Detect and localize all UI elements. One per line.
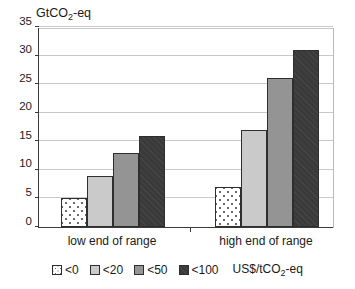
bar [139, 136, 165, 227]
legend-swatch-icon [179, 265, 189, 275]
legend-item[interactable]: <50 [134, 263, 167, 277]
y-axis-tick-label: 15 [19, 130, 32, 142]
chart-legend: <0<20<50<100US$/tCO2-eq [0, 262, 355, 277]
y-axis-title-prefix: GtCO [36, 6, 68, 20]
y-axis-tick [35, 169, 39, 170]
bar [87, 176, 113, 227]
y-axis-tick-label: 30 [19, 44, 32, 56]
y-axis-tick-label: 10 [19, 159, 32, 171]
legend-item-label: <20 [103, 263, 123, 277]
y-axis-tick-label: 20 [19, 101, 32, 113]
legend-item[interactable]: <0 [52, 263, 79, 277]
bar-chart: GtCO2-eq 05101520253035 low end of range… [0, 0, 355, 289]
y-axis-title-suffix: -eq [73, 6, 91, 20]
legend-swatch-icon [134, 265, 144, 275]
gridline [39, 26, 333, 27]
y-axis-tick [35, 83, 39, 84]
legend-unit-prefix: US$/tCO [233, 262, 281, 276]
legend-item[interactable]: <100 [179, 263, 219, 277]
bar [61, 198, 87, 227]
y-axis-tick [35, 226, 39, 227]
y-axis-tick-label: 25 [19, 73, 32, 85]
legend-item-label: <100 [192, 263, 219, 277]
y-axis-tick [35, 112, 39, 113]
y-axis-tick [35, 55, 39, 56]
legend-swatch-icon [52, 265, 62, 275]
bar [113, 153, 139, 227]
y-axis-title-subscript: 2 [68, 12, 73, 22]
bar [241, 130, 267, 227]
y-axis-tick [35, 197, 39, 198]
legend-item[interactable]: <20 [90, 263, 123, 277]
x-axis-label-high: high end of range [186, 234, 346, 248]
legend-unit-subscript: 2 [281, 268, 286, 278]
bar [267, 78, 293, 227]
x-axis-label-low: low end of range [32, 234, 192, 248]
legend-item-label: <50 [147, 263, 167, 277]
y-axis-tick-label: 0 [26, 216, 32, 228]
x-axis-group-separator [190, 227, 191, 232]
bar [293, 50, 319, 227]
gridline [39, 55, 333, 56]
legend-swatch-icon [90, 265, 100, 275]
legend-unit-suffix: -eq [286, 262, 303, 276]
bar [215, 187, 241, 227]
legend-item-label: <0 [65, 263, 79, 277]
y-axis-title: GtCO2-eq [36, 6, 91, 21]
y-axis-tick [35, 140, 39, 141]
y-axis-tick-label: 5 [26, 187, 32, 199]
y-axis-tick-label: 35 [19, 16, 32, 28]
plot-area: 05101520253035 [38, 28, 333, 228]
legend-unit-label: US$/tCO2-eq [233, 262, 303, 277]
y-axis-tick [35, 26, 39, 27]
